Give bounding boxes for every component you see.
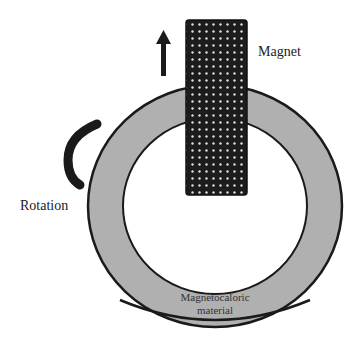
material-label: Magnetocaloric material [160, 291, 270, 317]
material-label-line2: material [160, 304, 270, 317]
up-arrow-icon [156, 30, 171, 76]
magnet [186, 20, 247, 195]
magnet-label: Magnet [258, 44, 301, 60]
rotation-label: Rotation [20, 198, 68, 214]
material-label-line1: Magnetocaloric [160, 291, 270, 304]
